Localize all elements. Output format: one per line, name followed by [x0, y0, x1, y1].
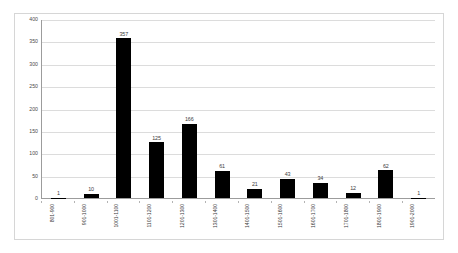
y-axis-tick-label: 50 — [32, 174, 38, 179]
bar[interactable]: 61 — [215, 171, 230, 198]
bar[interactable]: 21 — [247, 189, 262, 198]
y-axis-tick-label: 100 — [29, 152, 38, 157]
bar-value-label: 1 — [417, 191, 420, 196]
x-axis-tick-label: 1101-1200 — [147, 204, 152, 228]
bar-value-label: 21 — [252, 182, 258, 187]
bar-slot: 61 — [206, 20, 239, 198]
bar[interactable]: 43 — [280, 179, 295, 198]
y-axis-tick-label: 300 — [29, 62, 38, 67]
bar-slot: 43 — [271, 20, 304, 198]
x-axis-tickmark — [271, 201, 272, 203]
x-axis-tick-label: 1401-1500 — [245, 204, 250, 228]
x-axis-tickmark — [304, 201, 305, 203]
x-axis-tick-label: 1201-1300 — [179, 204, 184, 228]
bar[interactable]: 12 — [346, 193, 361, 198]
bar-slot: 21 — [239, 20, 272, 198]
x-axis-slot: 801-900 — [41, 201, 74, 241]
x-axis-slot: 1601-1700 — [304, 201, 337, 241]
x-axis-tickmark — [369, 201, 370, 203]
x-axis-slot: 1801-1900 — [369, 201, 402, 241]
bar-value-label: 12 — [350, 186, 356, 191]
x-axis-tickmark — [238, 201, 239, 203]
bar-value-label: 166 — [185, 117, 194, 122]
y-axis-tick-label: 350 — [29, 40, 38, 45]
x-axis-tick-label: 1901-2000 — [409, 204, 414, 228]
bar-slot: 357 — [108, 20, 141, 198]
x-axis-tick-label: 1301-1400 — [212, 204, 217, 228]
x-axis-tick-label: 801-900 — [51, 204, 56, 222]
x-axis-tickmark — [336, 201, 337, 203]
bar[interactable]: 1 — [51, 198, 66, 199]
bar-slot: 1 — [402, 20, 435, 198]
bars-layer: 1103571251666121433412621 — [42, 20, 435, 198]
bar[interactable]: 166 — [182, 124, 197, 198]
y-axis-tick-label: 150 — [29, 129, 38, 134]
bar-slot: 12 — [337, 20, 370, 198]
bar-value-label: 1 — [57, 191, 60, 196]
bar[interactable]: 34 — [313, 183, 328, 198]
bar[interactable]: 1 — [411, 198, 426, 199]
x-axis-slot: 1301-1400 — [205, 201, 238, 241]
bar-value-label: 43 — [285, 172, 291, 177]
y-axis-tick-label: 400 — [29, 17, 38, 22]
y-axis-tick-label: 0 — [35, 196, 38, 201]
bar[interactable]: 62 — [378, 170, 393, 198]
y-axis-tick-label: 200 — [29, 107, 38, 112]
x-axis-tickmark — [139, 201, 140, 203]
x-axis-slot: 1401-1500 — [238, 201, 271, 241]
bar-value-label: 357 — [119, 32, 128, 37]
x-axis-tick-label: 1001-1100 — [114, 204, 119, 228]
x-axis-tickmark — [41, 201, 42, 203]
bar-slot: 1 — [42, 20, 75, 198]
x-axis-tickmark — [74, 201, 75, 203]
bar-slot: 62 — [370, 20, 403, 198]
x-axis-tick-label: 1501-1600 — [278, 204, 283, 228]
bar-slot: 125 — [140, 20, 173, 198]
plot-area: 1103571251666121433412621 — [41, 20, 435, 199]
x-axis-tickmark — [205, 201, 206, 203]
bar-slot: 10 — [75, 20, 108, 198]
bar[interactable]: 357 — [116, 38, 131, 198]
bar-value-label: 62 — [383, 164, 389, 169]
x-axis-slot: 901-1000 — [74, 201, 107, 241]
x-axis-slot: 1901-2000 — [402, 201, 435, 241]
x-axis-tick-label: 901-1000 — [82, 204, 87, 225]
x-axis-tickmark — [107, 201, 108, 203]
y-axis: 400350300250200150100500 — [15, 14, 41, 199]
x-axis-tick-label: 1801-1900 — [376, 204, 381, 228]
x-axis-tick-label: 1601-1700 — [311, 204, 316, 228]
x-axis: 801-900901-10001001-11001101-12001201-13… — [41, 201, 435, 241]
x-axis-tickmark — [402, 201, 403, 203]
bar[interactable]: 10 — [84, 194, 99, 198]
bar-value-label: 10 — [88, 187, 94, 192]
bar-value-label: 61 — [219, 164, 225, 169]
bar-slot: 34 — [304, 20, 337, 198]
x-axis-slot: 1201-1300 — [172, 201, 205, 241]
plot-wrapper: 400350300250200150100500 110357125166612… — [15, 14, 443, 239]
x-axis-slot: 1501-1600 — [271, 201, 304, 241]
x-axis-tick-label: 1701-1800 — [344, 204, 349, 228]
x-axis-slot: 1701-1800 — [336, 201, 369, 241]
x-axis-slot: 1001-1100 — [107, 201, 140, 241]
x-axis-slot: 1101-1200 — [139, 201, 172, 241]
chart-container: 400350300250200150100500 110357125166612… — [14, 13, 444, 240]
bar-value-label: 34 — [317, 176, 323, 181]
x-axis-tickmark — [172, 201, 173, 203]
bar[interactable]: 125 — [149, 142, 164, 198]
bar-value-label: 125 — [152, 136, 161, 141]
y-axis-tick-label: 250 — [29, 85, 38, 90]
bar-slot: 166 — [173, 20, 206, 198]
